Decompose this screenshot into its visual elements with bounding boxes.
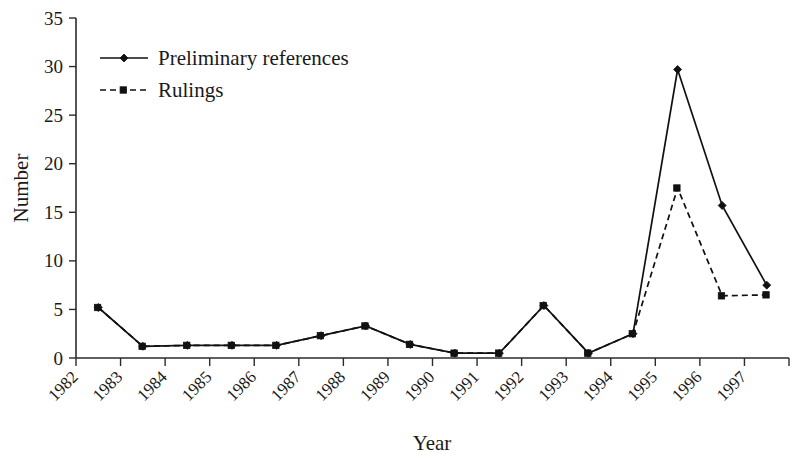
y-tick-label: 15 xyxy=(44,202,63,223)
legend-label: Rulings xyxy=(158,78,223,102)
y-axis-title-text: Number xyxy=(9,154,33,223)
y-tick-label: 20 xyxy=(44,153,63,174)
y-tick-label: 35 xyxy=(44,8,63,29)
data-point-marker xyxy=(674,185,680,191)
data-point-marker xyxy=(763,292,769,298)
line-chart: 05101520253035 1982198319841985198619871… xyxy=(0,0,808,465)
y-tick-label: 30 xyxy=(44,56,63,77)
y-tick-label: 10 xyxy=(44,250,63,271)
y-tick-label: 25 xyxy=(44,105,63,126)
legend-marker xyxy=(120,87,126,93)
x-axis-title-text: Year xyxy=(413,431,452,455)
y-axis-title: Number xyxy=(9,154,33,223)
chart-container: 05101520253035 1982198319841985198619871… xyxy=(0,0,808,465)
data-point-marker xyxy=(718,293,724,299)
legend-label: Preliminary references xyxy=(158,46,349,70)
x-axis-title: Year xyxy=(413,431,452,455)
y-tick-label: 0 xyxy=(54,348,64,369)
y-tick-label: 5 xyxy=(54,299,64,320)
